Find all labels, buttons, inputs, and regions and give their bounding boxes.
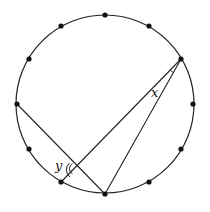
point xyxy=(190,101,195,106)
point xyxy=(58,179,63,184)
point xyxy=(102,12,107,17)
points xyxy=(14,12,195,196)
angle-x-arc xyxy=(170,70,174,73)
label-x: x xyxy=(151,85,159,100)
point xyxy=(14,101,19,106)
point xyxy=(178,56,183,61)
point xyxy=(146,179,151,184)
point xyxy=(26,146,31,151)
point xyxy=(178,146,183,151)
circle xyxy=(16,15,194,193)
point xyxy=(26,56,31,61)
point xyxy=(58,23,63,28)
point xyxy=(102,191,107,196)
circle-diagram: x y xyxy=(0,0,210,212)
segments xyxy=(17,59,181,194)
segment-bottom-to-upperright xyxy=(105,59,181,194)
point xyxy=(146,23,151,28)
segment-lowerleft-to-upperright xyxy=(61,59,181,182)
label-y: y xyxy=(54,158,63,173)
